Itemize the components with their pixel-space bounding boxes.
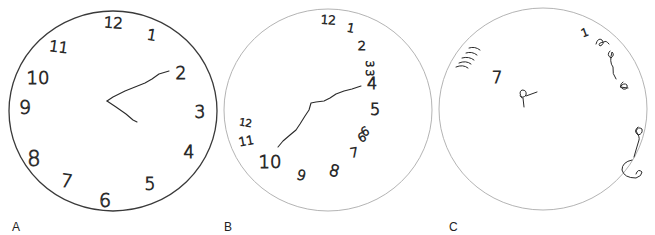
clock-numeral: 1 bbox=[146, 25, 159, 44]
handwritten-scribble bbox=[459, 62, 471, 64]
handwritten-scribble bbox=[462, 57, 474, 60]
clock-numeral: 12 bbox=[238, 116, 252, 129]
clock-hand bbox=[107, 71, 169, 101]
clock-face-a bbox=[9, 11, 217, 211]
clock-hand bbox=[278, 86, 361, 147]
clock-numeral: 6 bbox=[99, 189, 111, 211]
clock-hand bbox=[107, 101, 137, 122]
handwritten-scribble bbox=[469, 47, 480, 50]
clock-face-b bbox=[224, 9, 432, 211]
handwritten-scribble bbox=[520, 90, 537, 107]
clock-face-c bbox=[439, 8, 647, 210]
clock-numeral: 5 bbox=[145, 174, 156, 194]
clock-numeral: 7 bbox=[349, 144, 360, 160]
clock-numeral: 7 bbox=[60, 169, 74, 191]
panel-label-c: C bbox=[449, 221, 458, 233]
handwritten-scribble bbox=[622, 160, 642, 178]
clock-numeral: 11 bbox=[238, 133, 255, 149]
clock-numeral: 8 bbox=[327, 160, 342, 181]
clock-numeral: 12 bbox=[320, 12, 336, 27]
clock-numeral: 1 bbox=[346, 20, 356, 35]
handwritten-scribble bbox=[620, 82, 628, 89]
clock-numeral: 1 bbox=[579, 25, 590, 40]
clock-drawings-canvas: 121234567891011 1212334566789101112 17 bbox=[0, 0, 655, 235]
panel-label-b: B bbox=[224, 221, 232, 233]
clock-numeral: 4 bbox=[367, 74, 377, 93]
clock-numeral: 4 bbox=[184, 142, 195, 162]
clock-numeral: 9 bbox=[295, 166, 308, 184]
panel-b-clock: 1212334566789101112 bbox=[224, 9, 432, 211]
handwritten-scribble bbox=[456, 66, 468, 68]
clock-numeral: 7 bbox=[492, 68, 502, 87]
clock-numeral: 11 bbox=[48, 37, 69, 57]
handwritten-scribble bbox=[466, 52, 477, 55]
clock-numeral: 2 bbox=[358, 38, 366, 53]
clock-drawing-figure: 121234567891011 1212334566789101112 17 A… bbox=[0, 0, 655, 235]
clock-numeral: 2 bbox=[176, 63, 187, 83]
handwritten-scribble bbox=[596, 39, 609, 46]
clock-numeral: 10 bbox=[27, 67, 50, 88]
clock-numeral: 8 bbox=[27, 147, 40, 171]
panel-label-a: A bbox=[12, 221, 20, 233]
handwritten-scribble bbox=[608, 51, 616, 79]
clock-numeral: 3 bbox=[195, 102, 206, 122]
panel-c-clock: 17 bbox=[439, 8, 647, 210]
clock-numeral: 9 bbox=[19, 96, 31, 118]
clock-numeral: 12 bbox=[103, 13, 123, 32]
clock-numeral: 10 bbox=[259, 151, 282, 172]
clock-numeral: 5 bbox=[370, 100, 380, 119]
panel-a-clock: 121234567891011 bbox=[9, 11, 217, 211]
clock-numeral: 3 bbox=[363, 61, 376, 68]
